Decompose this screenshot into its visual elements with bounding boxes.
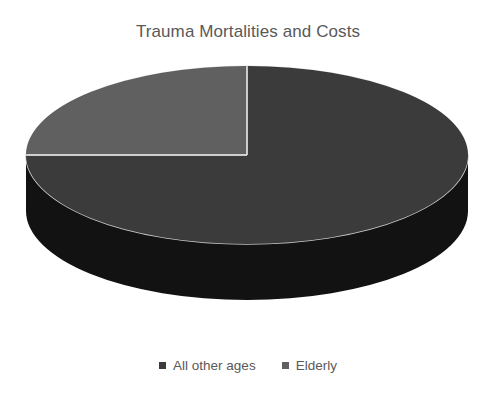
legend-item-all-other-ages[interactable]: All other ages [159, 359, 256, 373]
chart-legend: All other ages Elderly [0, 359, 496, 373]
legend-item-elderly[interactable]: Elderly [282, 359, 337, 373]
pie-chart-svg [0, 0, 496, 350]
pie-3d-render [26, 66, 468, 300]
pie-chart-figure: Trauma Mortalities and Costs All other a… [0, 0, 496, 394]
legend-label-all-other-ages: All other ages [173, 359, 256, 373]
pie-chart-plot-area [0, 0, 496, 350]
square-marker-icon [282, 362, 289, 369]
legend-label-elderly: Elderly [296, 359, 337, 373]
square-marker-icon [159, 362, 166, 369]
